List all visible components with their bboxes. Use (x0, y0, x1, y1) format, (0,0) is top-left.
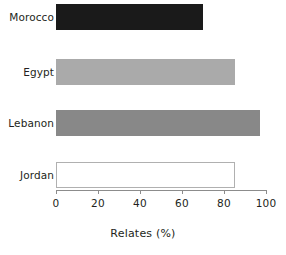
x-tick-label-100: 100 (256, 197, 277, 209)
bar-morocco[interactable] (56, 4, 203, 30)
x-tick-label-80: 80 (217, 197, 231, 209)
x-axis-title: Relates (%) (0, 227, 286, 240)
x-tick-label-0: 0 (53, 197, 60, 209)
bar-lebanon[interactable] (56, 110, 260, 136)
x-tick-label-40: 40 (133, 197, 147, 209)
bar-row-egypt (56, 59, 266, 85)
x-tick-80 (224, 190, 225, 194)
bar-jordan[interactable] (56, 162, 235, 188)
plot-area (56, 4, 266, 190)
bar-row-jordan (56, 162, 266, 188)
category-label-morocco: Morocco (9, 4, 54, 30)
x-tick-0 (56, 190, 57, 194)
x-tick-20 (98, 190, 99, 194)
category-label-jordan: Jordan (20, 162, 54, 188)
category-label-egypt: Egypt (23, 59, 54, 85)
x-tick-60 (182, 190, 183, 194)
bar-row-morocco (56, 4, 266, 30)
x-tick-100 (266, 190, 267, 194)
bar-chart: Morocco Egypt Lebanon Jordan 02040608010… (0, 0, 286, 255)
x-tick-label-60: 60 (175, 197, 189, 209)
bar-row-lebanon (56, 110, 266, 136)
x-tick-label-20: 20 (91, 197, 105, 209)
x-tick-40 (140, 190, 141, 194)
x-axis-line (56, 190, 266, 191)
bar-egypt[interactable] (56, 59, 235, 85)
category-label-lebanon: Lebanon (8, 110, 54, 136)
